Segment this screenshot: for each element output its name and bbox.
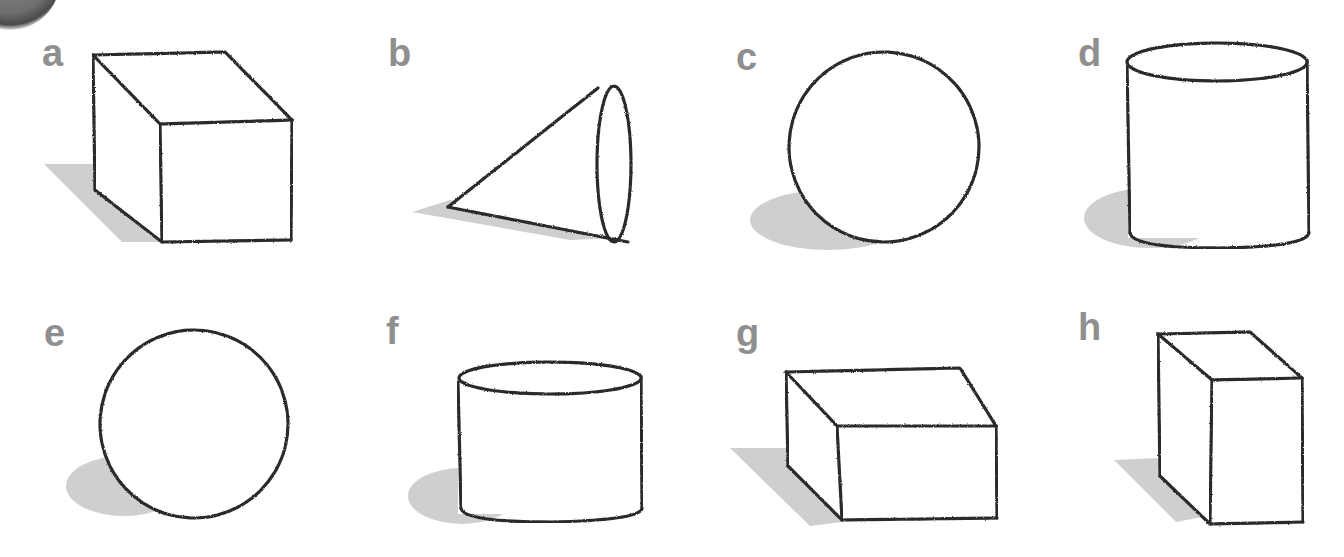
sphere-icon bbox=[720, 0, 1050, 270]
panel-f-short-cylinder: f bbox=[370, 290, 700, 557]
cylinder-icon bbox=[1050, 0, 1344, 270]
cone-icon bbox=[370, 0, 700, 270]
panel-c-sphere: c bbox=[720, 0, 1050, 270]
panel-g-flat-box: g bbox=[720, 290, 1050, 557]
panel-b-cone: b bbox=[370, 0, 700, 270]
flat-box-icon bbox=[720, 290, 1050, 557]
sphere-icon bbox=[0, 290, 330, 557]
panel-a-cube: a bbox=[0, 0, 330, 270]
tall-box-icon bbox=[1060, 290, 1344, 557]
short-cylinder-icon bbox=[370, 290, 700, 557]
cube-icon bbox=[0, 0, 330, 270]
panel-h-tall-box: h bbox=[1060, 290, 1344, 557]
panel-e-sphere: e bbox=[0, 290, 330, 557]
panel-d-cylinder: d bbox=[1050, 0, 1344, 270]
